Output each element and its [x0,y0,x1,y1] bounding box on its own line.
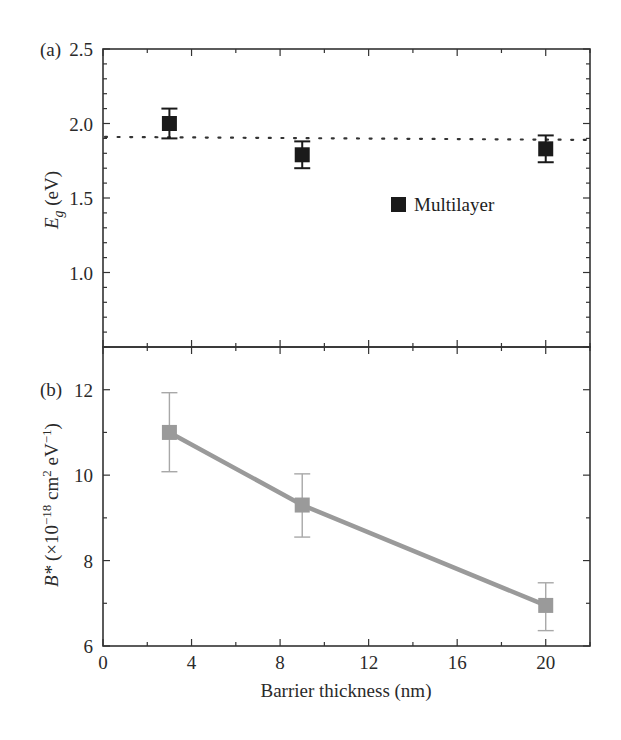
ylabel-b-exp1: −18 [39,505,54,525]
legend-marker-square-icon [391,197,406,212]
data-marker-square [162,425,177,440]
data-marker-square [295,147,310,162]
x-axis: 048121620 [98,652,555,673]
panel-a-label: (a) [40,39,61,61]
y-axis-title-b: B* (×10−18 cm2 eV−1) [39,423,63,587]
ylabel-a-unit: (eV) [41,171,63,211]
data-marker-square [295,498,310,513]
x-axis-title: Barrier thickness (nm) [261,680,432,702]
ylabel-a-subscript: g [51,210,66,217]
y-tick-label: 6 [84,636,94,657]
panel-b-plot: 681012 [74,347,590,657]
x-tick-label: 0 [98,652,108,673]
x-tick-label: 20 [536,652,555,673]
x-tick-label: 16 [448,652,467,673]
plot-frame [103,347,590,646]
x-tick-label: 12 [359,652,378,673]
y-tick-label: 1.0 [69,263,93,284]
x-tick-label: 4 [187,652,197,673]
ylabel-b-exp3: −1 [39,429,54,443]
ylabel-b-pre: (×10 [41,525,63,566]
data-marker-square [538,598,553,613]
y-tick-label: 12 [74,380,93,401]
x-tick-label: 8 [275,652,285,673]
ylabel-a-symbol: E [41,217,62,230]
y-tick-label: 2.5 [69,39,93,60]
legend: Multilayer [391,194,495,215]
data-marker-square [538,141,553,156]
y-tick-label: 2.0 [69,114,93,135]
ylabel-b-mid: cm [41,476,62,504]
ylabel-b-mid2: eV [41,443,62,470]
ylabel-b-symbol: B* [41,565,62,587]
reference-dotted-line [105,137,588,140]
y-axis-title-a: Eg (eV) [41,171,66,230]
plot-frame [103,49,590,347]
y-tick-label: 8 [84,551,94,572]
y-tick-label: 10 [74,465,93,486]
panel-b-label: (b) [40,379,62,401]
legend-label-multilayer: Multilayer [414,194,495,215]
figure: 1.01.52.02.5 681012 048121620 (a) (b) Eg… [0,0,621,740]
series-line [169,432,545,605]
data-marker-square [162,116,177,131]
y-tick-label: 1.5 [69,188,93,209]
panel-a-plot: 1.01.52.02.5 [69,39,590,347]
ylabel-b-post: ) [41,423,63,429]
